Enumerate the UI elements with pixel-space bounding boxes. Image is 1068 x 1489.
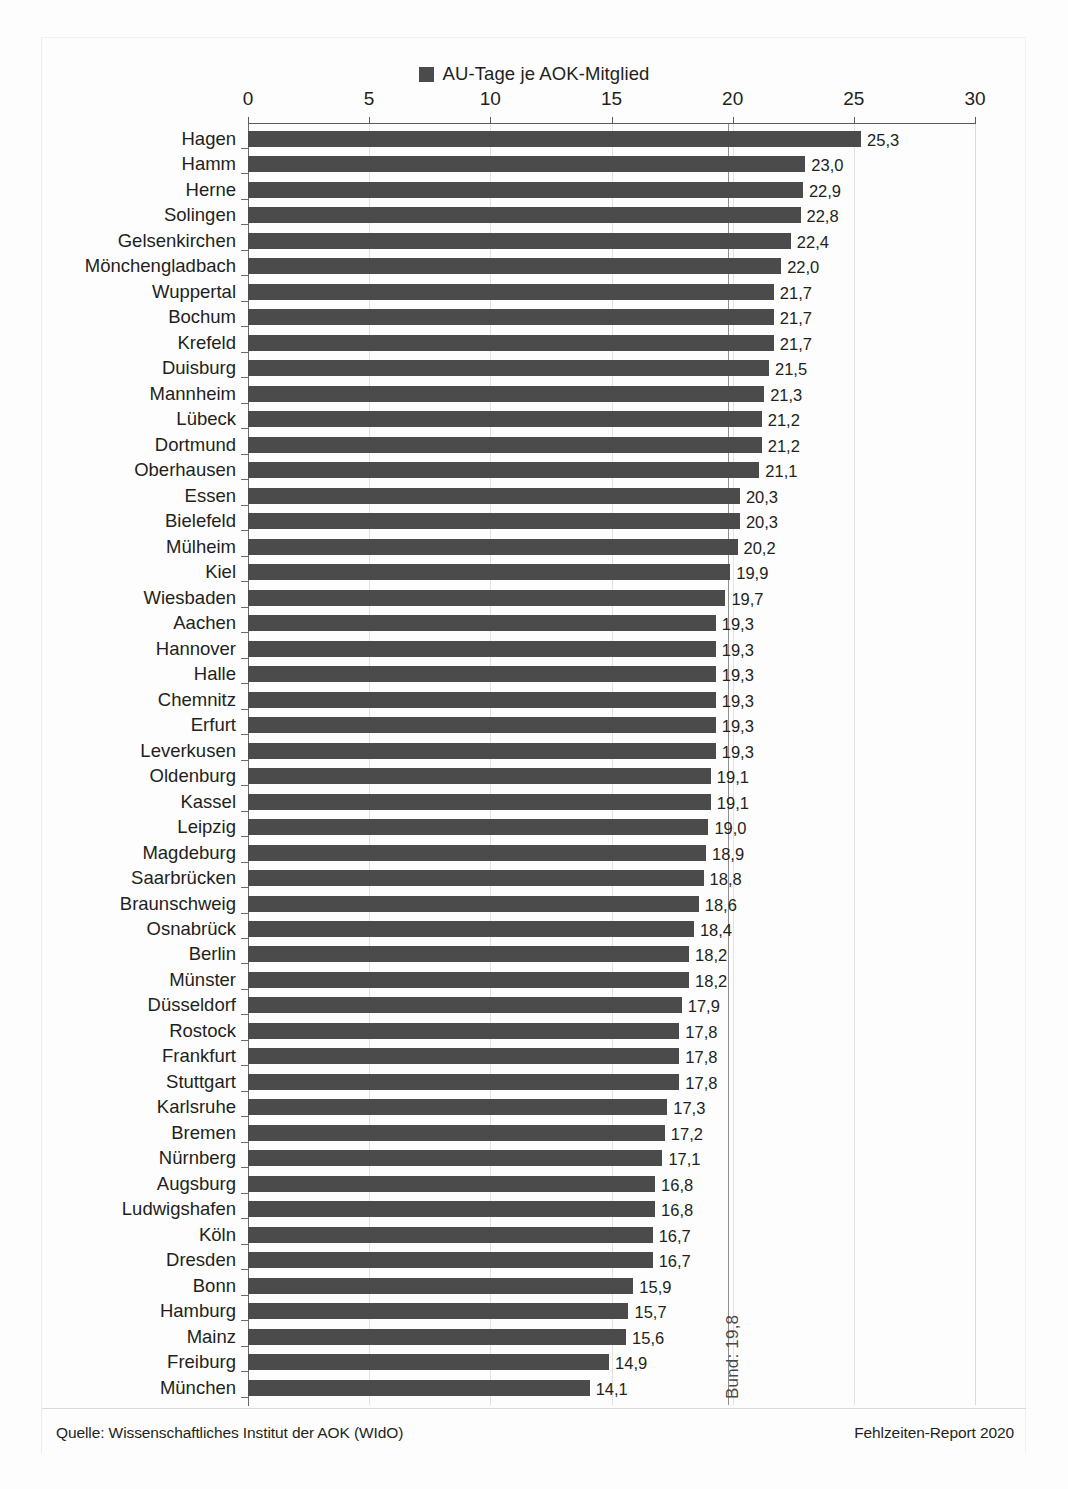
bar xyxy=(248,1354,609,1370)
y-axis-tick xyxy=(241,1065,248,1066)
bar-value-label: 22,9 xyxy=(809,183,841,200)
chart-row: Oldenburg19,1 xyxy=(248,763,975,788)
chart-row: Hamm23,0 xyxy=(248,151,975,176)
bar xyxy=(248,768,711,784)
category-label: Düsseldorf xyxy=(0,996,236,1015)
category-label: Freiburg xyxy=(0,1353,236,1372)
chart-row: Karlsruhe17,3 xyxy=(248,1095,975,1120)
category-label: Wiesbaden xyxy=(0,589,236,608)
category-label: Augsburg xyxy=(0,1175,236,1194)
bar xyxy=(248,513,740,529)
chart-row: München14,1 xyxy=(248,1375,975,1400)
category-label: Krefeld xyxy=(0,334,236,353)
y-axis-tick xyxy=(241,224,248,225)
chart-row: Braunschweig18,6 xyxy=(248,891,975,916)
bar-value-label: 22,8 xyxy=(807,208,839,225)
bar-value-label: 21,2 xyxy=(768,438,800,455)
category-label: Braunschweig xyxy=(0,895,236,914)
bar-value-label: 18,6 xyxy=(705,897,737,914)
category-label: Köln xyxy=(0,1226,236,1245)
category-label: Mönchengladbach xyxy=(0,257,236,276)
bar xyxy=(248,1099,667,1115)
bar xyxy=(248,1048,679,1064)
bar xyxy=(248,284,774,300)
chart-row: Stuttgart17,8 xyxy=(248,1069,975,1094)
chart-row: Kassel19,1 xyxy=(248,789,975,814)
chart-row: Oberhausen21,1 xyxy=(248,457,975,482)
y-axis-tick xyxy=(241,556,248,557)
bar-value-label: 18,2 xyxy=(695,973,727,990)
y-axis-tick xyxy=(241,632,248,633)
category-label: Oldenburg xyxy=(0,767,236,786)
bar xyxy=(248,794,711,810)
chart-row: Erfurt19,3 xyxy=(248,712,975,737)
chart-row: Düsseldorf17,9 xyxy=(248,993,975,1018)
chart-row: Rostock17,8 xyxy=(248,1018,975,1043)
y-axis-tick xyxy=(241,454,248,455)
chart-row: Solingen22,8 xyxy=(248,202,975,227)
bar xyxy=(248,386,764,402)
y-axis-tick xyxy=(241,275,248,276)
x-axis-tick xyxy=(733,117,734,124)
x-axis-tick-label: 5 xyxy=(364,88,375,110)
bar-value-label: 19,3 xyxy=(722,642,754,659)
bar xyxy=(248,921,694,937)
chart-row: Bremen17,2 xyxy=(248,1120,975,1145)
category-label: Kiel xyxy=(0,563,236,582)
bar-value-label: 17,1 xyxy=(668,1151,700,1168)
y-axis-tick xyxy=(241,862,248,863)
bar-value-label: 20,3 xyxy=(746,514,778,531)
legend-label: AU-Tage je AOK-Mitglied xyxy=(443,63,650,85)
x-axis-tick-label: 10 xyxy=(480,88,501,110)
bar xyxy=(248,131,861,147)
chart-row: Osnabrück18,4 xyxy=(248,916,975,941)
bar-value-label: 19,3 xyxy=(722,667,754,684)
y-axis-tick xyxy=(241,1269,248,1270)
y-axis-tick xyxy=(241,989,248,990)
chart-row: Aachen19,3 xyxy=(248,610,975,635)
bar-value-label: 18,9 xyxy=(712,846,744,863)
bar-value-label: 17,8 xyxy=(685,1075,717,1092)
chart-footer: Quelle: Wissenschaftliches Institut der … xyxy=(56,1424,1014,1442)
category-label: Hamburg xyxy=(0,1302,236,1321)
category-label: Dresden xyxy=(0,1251,236,1270)
bar xyxy=(248,692,716,708)
category-label: Gelsenkirchen xyxy=(0,232,236,251)
chart-row: Hannover19,3 xyxy=(248,636,975,661)
chart-row: Leipzig19,0 xyxy=(248,814,975,839)
category-label: Chemnitz xyxy=(0,691,236,710)
y-axis-tick xyxy=(241,199,248,200)
bar xyxy=(248,539,738,555)
category-label: Karlsruhe xyxy=(0,1098,236,1117)
bar xyxy=(248,156,805,172)
bar-value-label: 17,9 xyxy=(688,998,720,1015)
y-axis-tick xyxy=(241,1193,248,1194)
x-axis-tick-label: 30 xyxy=(964,88,985,110)
bar-value-label: 20,3 xyxy=(746,489,778,506)
category-label: Saarbrücken xyxy=(0,869,236,888)
category-label: Wuppertal xyxy=(0,283,236,302)
chart-row: Hagen25,3 xyxy=(248,126,975,151)
bar xyxy=(248,207,801,223)
chart-row: Augsburg16,8 xyxy=(248,1171,975,1196)
category-label: Osnabrück xyxy=(0,920,236,939)
bar-value-label: 21,2 xyxy=(768,412,800,429)
y-axis-tick xyxy=(241,709,248,710)
bar-value-label: 19,7 xyxy=(731,591,763,608)
gridline xyxy=(975,124,976,1405)
category-label: Mainz xyxy=(0,1328,236,1347)
bar-value-label: 19,1 xyxy=(717,795,749,812)
chart-row: Mülheim20,2 xyxy=(248,534,975,559)
y-axis-tick xyxy=(241,683,248,684)
source-note: Quelle: Wissenschaftliches Institut der … xyxy=(56,1424,403,1442)
bar-value-label: 19,3 xyxy=(722,693,754,710)
bar-value-label: 22,4 xyxy=(797,234,829,251)
chart-row: Nürnberg17,1 xyxy=(248,1146,975,1171)
bar xyxy=(248,1252,653,1268)
bar-value-label: 22,0 xyxy=(787,259,819,276)
y-axis-tick xyxy=(241,250,248,251)
bar-value-label: 19,3 xyxy=(722,718,754,735)
chart-row: Chemnitz19,3 xyxy=(248,687,975,712)
category-label: Nürnberg xyxy=(0,1149,236,1168)
category-label: Leverkusen xyxy=(0,742,236,761)
